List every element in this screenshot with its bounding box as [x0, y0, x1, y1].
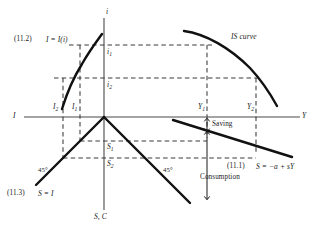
tick-label-i2: i2	[107, 81, 112, 89]
saving-arrow	[204, 118, 209, 132]
tick-label-I2: I2	[53, 103, 59, 111]
forty-five-degree-line-se	[104, 117, 190, 203]
tick-label-S1-sub: 1	[111, 146, 114, 152]
equation-ref-11-3: (11.3)	[7, 190, 25, 197]
is-curve-label: IS curve	[231, 33, 257, 41]
axis-label-S-C: S, C	[94, 213, 107, 221]
is-curve-derivation-figure: i Y I S, C (11.2) I = I(i) IS curve (11.…	[0, 0, 316, 234]
tick-label-Y1-sub: 1	[202, 106, 205, 112]
angle-label-se: 45°	[163, 167, 173, 174]
equation-investment-function: I = I(i)	[46, 36, 68, 44]
is-curve	[184, 31, 277, 106]
tick-label-I2-sub: 2	[56, 106, 59, 112]
tick-label-Y1: Y1	[198, 103, 205, 111]
angle-label-sw: 45°	[38, 167, 48, 174]
axes-group	[24, 18, 300, 210]
tick-label-i2-sub: 2	[109, 84, 112, 90]
saving-label: Saving	[212, 121, 233, 128]
equation-ref-11-1: (11.1)	[227, 163, 245, 170]
consumption-label: Consumption	[200, 174, 240, 181]
tick-label-S2: S2	[107, 160, 114, 168]
tick-label-S2-sub: 2	[111, 163, 114, 169]
axis-label-I: I	[13, 112, 16, 120]
tick-label-i1-sub: 1	[109, 51, 112, 57]
tick-label-Y2-sub: 2	[251, 106, 254, 112]
equation-saving-function: S = −a + sY	[256, 163, 294, 171]
equation-s-equals-i: S = I	[38, 190, 54, 198]
tick-label-I1-sub: 1	[75, 106, 78, 112]
construction-lines-group	[54, 45, 262, 158]
equation-ref-11-2: (11.2)	[14, 36, 32, 43]
axis-label-Y: Y	[302, 112, 306, 120]
forty-five-degree-line-sw	[36, 117, 104, 185]
tick-label-S1: S1	[107, 143, 114, 151]
tick-label-i1: i1	[107, 48, 112, 56]
axis-label-i: i	[106, 8, 108, 16]
tick-label-I1: I1	[72, 103, 78, 111]
tick-label-Y2: Y2	[247, 103, 254, 111]
